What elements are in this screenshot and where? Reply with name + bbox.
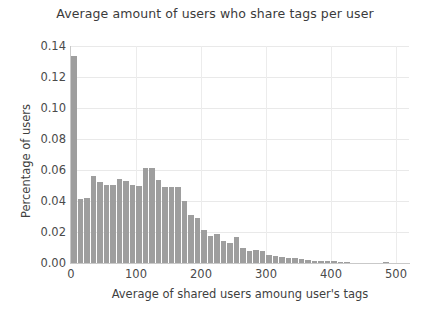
x-tick-label: 200 bbox=[190, 267, 212, 281]
gridline-horizontal bbox=[71, 77, 409, 78]
bar bbox=[169, 187, 175, 263]
bar bbox=[97, 182, 103, 263]
bar bbox=[221, 241, 227, 263]
y-axis-tick-labels: 0.000.020.040.060.080.100.120.14 bbox=[0, 0, 66, 319]
gridline-horizontal bbox=[71, 46, 409, 47]
x-tick-label: 500 bbox=[385, 267, 407, 281]
bar bbox=[266, 255, 272, 263]
y-tick-label: 0.10 bbox=[2, 101, 66, 115]
bar bbox=[247, 251, 253, 263]
bar bbox=[227, 243, 233, 263]
bar bbox=[260, 251, 266, 263]
bar bbox=[253, 250, 259, 263]
bar bbox=[117, 179, 123, 263]
bar bbox=[195, 218, 201, 263]
y-tick-label: 0.00 bbox=[2, 256, 66, 270]
gridline-vertical bbox=[396, 46, 397, 263]
y-axis-label: Percentage of users bbox=[19, 66, 33, 256]
y-tick-label: 0.08 bbox=[2, 132, 66, 146]
x-tick-label: 300 bbox=[255, 267, 277, 281]
bar bbox=[149, 168, 155, 263]
y-tick-label: 0.06 bbox=[2, 163, 66, 177]
bar bbox=[214, 234, 220, 263]
bar bbox=[208, 236, 214, 263]
bar bbox=[84, 198, 90, 263]
x-axis-spine bbox=[70, 263, 410, 264]
plot-area bbox=[71, 46, 409, 263]
bar bbox=[234, 237, 240, 263]
bar bbox=[273, 256, 279, 263]
bar bbox=[71, 56, 77, 263]
gridline-horizontal bbox=[71, 170, 409, 171]
x-tick-label: 400 bbox=[320, 267, 342, 281]
bar bbox=[104, 185, 110, 263]
gridline-horizontal bbox=[71, 108, 409, 109]
y-axis-spine bbox=[70, 46, 71, 264]
bar bbox=[201, 230, 207, 263]
bar bbox=[156, 180, 162, 263]
x-tick-label: 0 bbox=[67, 267, 74, 281]
gridline-vertical bbox=[331, 46, 332, 263]
bar bbox=[123, 181, 129, 263]
x-axis-label: Average of shared users amoung user's ta… bbox=[70, 287, 410, 301]
bar bbox=[136, 186, 142, 264]
y-tick-label: 0.02 bbox=[2, 225, 66, 239]
y-tick-label: 0.04 bbox=[2, 194, 66, 208]
bar bbox=[240, 248, 246, 263]
bar bbox=[91, 176, 97, 263]
gridline-horizontal bbox=[71, 139, 409, 140]
bar bbox=[182, 201, 188, 263]
chart-figure: Average amount of users who share tags p… bbox=[0, 0, 430, 319]
bar bbox=[110, 185, 116, 263]
bar bbox=[175, 187, 181, 263]
gridline-vertical bbox=[266, 46, 267, 263]
y-tick-label: 0.14 bbox=[2, 39, 66, 53]
bar bbox=[143, 168, 149, 263]
bar bbox=[188, 215, 194, 263]
y-tick-label: 0.12 bbox=[2, 70, 66, 84]
x-tick-label: 100 bbox=[125, 267, 147, 281]
bar bbox=[162, 187, 168, 263]
bar bbox=[78, 199, 84, 263]
bar bbox=[130, 185, 136, 263]
